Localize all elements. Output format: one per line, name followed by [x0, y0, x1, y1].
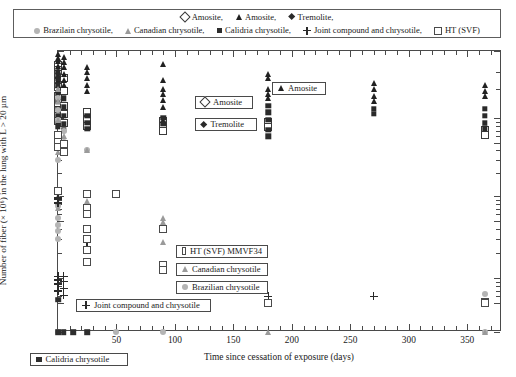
- x-axis-minor-tick: [397, 51, 398, 55]
- open-diamond-marker-icon: [199, 97, 210, 108]
- x-axis-tick: [409, 324, 410, 330]
- data-point: [160, 91, 166, 97]
- x-axis-tick: [350, 324, 351, 330]
- callout-label: Joint compound and chrysotile: [94, 301, 200, 310]
- y-axis-title: Number of fiber (× 10⁶) in the lung with…: [0, 50, 8, 331]
- y-axis-minor-tick: [496, 282, 500, 283]
- data-point: [83, 225, 91, 233]
- x-axis-minor-tick: [210, 51, 211, 55]
- x-axis-minor-tick: [222, 51, 223, 55]
- x-axis-minor-tick: [245, 326, 246, 330]
- x-axis-minor-tick: [456, 326, 457, 330]
- data-point: [85, 113, 90, 118]
- x-axis-minor-tick: [93, 51, 94, 55]
- data-point: [371, 98, 377, 104]
- grey-tri-marker-icon: [125, 28, 131, 34]
- legend-item-ht-svf: HT (SVF): [434, 26, 480, 35]
- x-axis-minor-tick: [257, 51, 258, 55]
- data-point: [61, 329, 67, 335]
- data-point: [160, 61, 166, 67]
- data-point: [55, 70, 60, 75]
- x-axis-tick: [175, 51, 176, 57]
- data-point: [265, 329, 271, 335]
- y-axis-minor-tick: [496, 229, 500, 230]
- y-axis-minor-tick: [496, 160, 500, 161]
- grey-circle-marker-icon: [34, 28, 40, 34]
- data-point: [61, 71, 67, 77]
- legend-item-label: Calidria chrysotile,: [225, 26, 291, 35]
- legend-item-amosite: Amosite,: [181, 13, 223, 22]
- data-point: [159, 225, 167, 233]
- x-axis-minor-tick: [444, 326, 445, 330]
- data-point: [84, 147, 90, 153]
- callout-tremolite: Tremolite: [195, 118, 257, 131]
- callout-joint-compound: Joint compound and chrysotile: [76, 299, 211, 312]
- x-axis-minor-tick: [374, 51, 375, 55]
- x-axis-minor-tick: [198, 51, 199, 55]
- data-point: [55, 107, 61, 113]
- data-point: [266, 103, 271, 108]
- x-axis-tick: [467, 51, 468, 57]
- open-sq-marker-icon: [182, 247, 186, 255]
- x-axis-minor-tick: [163, 51, 164, 55]
- y-axis-tick: [494, 196, 500, 197]
- data-point: [266, 127, 271, 132]
- data-point: [70, 329, 76, 335]
- x-axis-minor-tick: [140, 51, 141, 55]
- data-point: [482, 291, 488, 297]
- data-point: [61, 96, 66, 101]
- open-diamond-marker-icon: [179, 11, 190, 22]
- y-axis-minor-tick: [496, 122, 500, 123]
- x-axis-tick: [292, 51, 293, 57]
- x-axis-tick: [292, 324, 293, 330]
- y-axis-minor-tick: [496, 131, 500, 132]
- data-point: [83, 246, 91, 254]
- data-point: [112, 190, 120, 198]
- legend-row-1: Amosite,Amosite,Tremolite,: [14, 10, 500, 24]
- open-sq-marker-icon: [434, 27, 442, 35]
- legend-row-2: Brazilain chrysotile,Canadian chrysotile…: [14, 23, 500, 38]
- data-point: [266, 134, 271, 139]
- x-axis-minor-tick: [105, 51, 106, 55]
- grey-tri-marker-icon: [182, 266, 188, 272]
- x-axis-minor-tick: [105, 326, 106, 330]
- x-axis-tick: [350, 51, 351, 57]
- filled-diamond-marker-icon: [288, 13, 296, 21]
- x-axis-minor-tick: [339, 326, 340, 330]
- x-axis-minor-tick: [198, 326, 199, 330]
- legend-item-calidria-chrysotile: Calidria chrysotile,: [217, 26, 291, 35]
- data-point: [160, 97, 166, 103]
- callout-calidria-chrysotile: Calidria chrysotile: [30, 353, 128, 366]
- x-axis-minor-tick: [327, 51, 328, 55]
- data-point: [159, 127, 167, 135]
- x-axis-minor-tick: [81, 326, 82, 330]
- filled-sq-marker-icon: [217, 28, 223, 34]
- y-axis-minor-tick: [496, 296, 500, 297]
- data-point: [266, 109, 271, 114]
- x-axis-tick: [233, 51, 234, 57]
- data-point: [482, 106, 487, 111]
- y-axis-minor-tick: [496, 200, 500, 201]
- x-axis-minor-tick: [397, 326, 398, 330]
- data-point: [84, 82, 90, 88]
- data-point: [83, 258, 91, 266]
- x-axis-minor-tick: [315, 326, 316, 330]
- x-axis-minor-tick: [187, 51, 188, 55]
- data-point: [61, 64, 67, 70]
- y-axis-minor-tick: [58, 173, 62, 174]
- y-axis-minor-tick: [496, 239, 500, 240]
- x-axis-minor-tick: [479, 51, 480, 55]
- data-point: [160, 104, 166, 110]
- filled-tri-marker-icon: [278, 85, 284, 91]
- data-point: [265, 75, 271, 81]
- data-point: [161, 121, 166, 126]
- data-point: [55, 236, 61, 242]
- legend-item-label: Tremolite,: [298, 13, 334, 22]
- x-axis-minor-tick: [70, 51, 71, 55]
- data-point: [83, 235, 91, 243]
- data-point: [84, 88, 90, 94]
- x-axis-tick: [233, 324, 234, 330]
- data-point: [54, 199, 62, 207]
- grey-circle-marker-icon: [182, 284, 188, 290]
- data-point: [55, 215, 61, 221]
